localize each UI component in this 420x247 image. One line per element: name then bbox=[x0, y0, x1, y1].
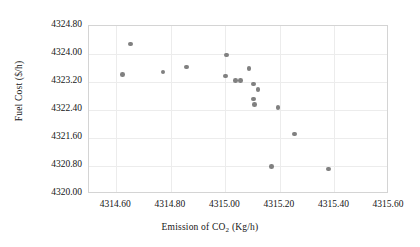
x-axis-title-pre: Emission of CO bbox=[162, 222, 226, 232]
gridline-horizontal bbox=[89, 110, 387, 111]
gridline-vertical bbox=[171, 26, 172, 192]
gridline-horizontal bbox=[89, 138, 387, 139]
gridline-vertical bbox=[280, 26, 281, 192]
x-axis-tick-label: 4315.40 bbox=[303, 199, 363, 209]
y-axis-tick-label: 4320.80 bbox=[28, 159, 82, 169]
y-axis-tick-label: 4324.80 bbox=[28, 19, 82, 29]
y-axis-tick-label: 4324.00 bbox=[28, 47, 82, 57]
gridline-horizontal bbox=[89, 54, 387, 55]
gridline-vertical bbox=[225, 26, 226, 192]
x-axis-title: Emission of CO2 (Kg/h) bbox=[0, 222, 420, 232]
y-axis-title: Fuel Cost ($/h) bbox=[14, 36, 24, 146]
gridline-vertical bbox=[334, 26, 335, 192]
data-point bbox=[252, 102, 257, 107]
y-axis-tick-label: 4323.20 bbox=[28, 75, 82, 85]
scatter-chart-figure: Fuel Cost ($/h) Emission of CO2 (Kg/h) 4… bbox=[0, 0, 420, 247]
data-point bbox=[238, 78, 243, 83]
x-axis-title-subscript: 2 bbox=[226, 226, 230, 234]
gridline-vertical bbox=[116, 26, 117, 192]
x-axis-title-post: (Kg/h) bbox=[229, 222, 258, 232]
data-point bbox=[233, 78, 238, 83]
data-point bbox=[276, 105, 281, 110]
data-point bbox=[120, 72, 125, 77]
data-point bbox=[269, 164, 274, 169]
x-axis-tick-label: 4314.80 bbox=[140, 199, 200, 209]
y-axis-tick-label: 4322.40 bbox=[28, 103, 82, 113]
gridline-horizontal bbox=[89, 166, 387, 167]
x-axis-tick-label: 4315.20 bbox=[249, 199, 309, 209]
x-axis-tick-label: 4315.60 bbox=[358, 199, 418, 209]
plot-area bbox=[88, 25, 388, 193]
x-axis-tick-label: 4314.60 bbox=[85, 199, 145, 209]
x-axis-tick-label: 4315.00 bbox=[194, 199, 254, 209]
y-axis-tick-label: 4321.60 bbox=[28, 131, 82, 141]
data-point bbox=[128, 42, 133, 47]
y-axis-tick-label: 4320.00 bbox=[28, 187, 82, 197]
